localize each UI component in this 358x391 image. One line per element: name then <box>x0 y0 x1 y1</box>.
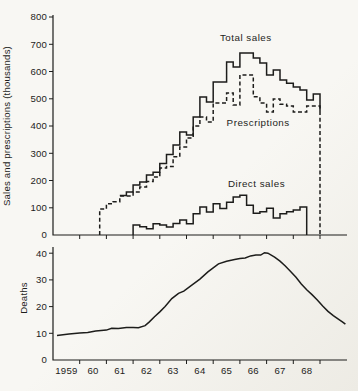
y-tick-label: 500 <box>30 93 47 104</box>
y-tick-label: 200 <box>30 175 47 186</box>
top-axes <box>53 15 347 235</box>
scanned-figure: 0100200300400500600700800Sales and presc… <box>0 0 358 391</box>
y-tick-label: 600 <box>30 66 47 77</box>
y-tick-label: 300 <box>30 148 47 159</box>
series-prescriptions <box>100 75 320 235</box>
top-y-axis-label: Sales and prescriptions (thousands) <box>1 46 12 206</box>
x-tick-label: 63 <box>168 365 179 376</box>
y-tick-label: 0 <box>41 229 47 240</box>
y-tick-label: 700 <box>30 39 47 50</box>
series-label-prescriptions: Prescriptions <box>227 117 290 128</box>
x-tick-label: 68 <box>301 365 312 376</box>
series-deaths <box>57 253 345 336</box>
y-tick-label: 20 <box>36 301 47 312</box>
x-tick-label: 60 <box>88 365 99 376</box>
y-tick-label: 100 <box>30 202 47 213</box>
x-tick-label: 67 <box>274 365 285 376</box>
y-tick-label: 10 <box>36 328 47 339</box>
bottom-y-axis-label: Deaths <box>18 282 29 314</box>
bottom-axes <box>53 247 347 360</box>
y-tick-label: 0 <box>41 354 47 365</box>
x-tick-label: 61 <box>114 365 125 376</box>
bottom-panel: 0102030401959606162636465666768Deaths <box>18 247 347 376</box>
x-tick-label: 62 <box>141 365 152 376</box>
x-tick-label: 64 <box>194 365 206 376</box>
series-total-sales <box>120 53 320 196</box>
x-tick-label: 65 <box>221 365 232 376</box>
series-label-total-sales: Total sales <box>220 32 272 43</box>
y-tick-label: 400 <box>30 120 47 131</box>
top-panel: 0100200300400500600700800Sales and presc… <box>1 11 347 240</box>
series-label-direct-sales: Direct sales <box>228 178 285 189</box>
dual-panel-chart: 0100200300400500600700800Sales and presc… <box>0 0 358 391</box>
series-direct-sales <box>133 195 307 235</box>
x-tick-label: 66 <box>248 365 259 376</box>
y-tick-label: 800 <box>30 11 47 22</box>
y-tick-label: 40 <box>36 248 47 259</box>
y-tick-label: 30 <box>36 274 47 285</box>
x-tick-label: 1959 <box>55 365 77 376</box>
